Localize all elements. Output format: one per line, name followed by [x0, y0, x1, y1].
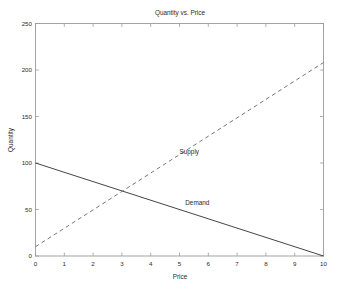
x-tick-label-2: 2	[91, 260, 95, 267]
y-tick-label-0: 0	[29, 252, 33, 259]
y-tick-label-4: 200	[22, 66, 33, 73]
x-axis-title: Price	[173, 273, 188, 280]
y-axis-title: Quantity	[7, 127, 15, 152]
x-tick-label-6: 6	[207, 260, 211, 267]
chart-figure: Quantity vs. Price 012345678910 05010015…	[0, 0, 341, 290]
x-tick-label-10: 10	[320, 260, 327, 267]
annotation-demand: Demand	[185, 199, 210, 206]
x-tick-label-7: 7	[235, 260, 239, 267]
annotation-supply: Supply	[180, 148, 200, 156]
x-tick-label-0: 0	[34, 260, 38, 267]
y-tick-label-5: 250	[22, 20, 33, 27]
quantity-vs-price-chart: Quantity vs. Price 012345678910 05010015…	[0, 0, 341, 290]
x-tick-label-1: 1	[63, 260, 67, 267]
y-tick-label-3: 150	[22, 113, 33, 120]
x-tick-label-4: 4	[149, 260, 153, 267]
x-tick-label-5: 5	[178, 260, 182, 267]
x-tick-label-3: 3	[120, 260, 124, 267]
figure-background	[0, 0, 341, 290]
x-tick-label-8: 8	[264, 260, 268, 267]
y-tick-label-1: 50	[25, 206, 32, 213]
y-tick-label-2: 100	[22, 159, 33, 166]
chart-title: Quantity vs. Price	[155, 9, 206, 17]
x-tick-label-9: 9	[293, 260, 297, 267]
